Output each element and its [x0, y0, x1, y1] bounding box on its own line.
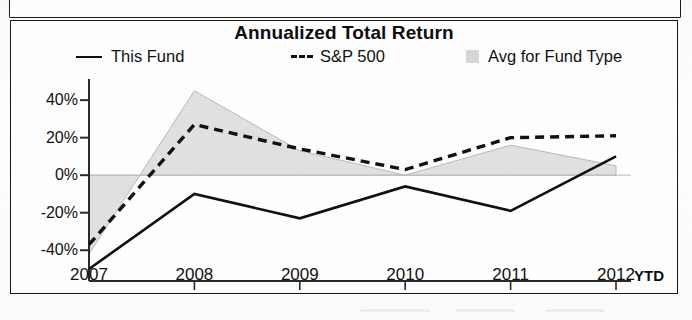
y-axis-tick-label: 0% — [18, 166, 78, 184]
x-axis-tick-label: 2008 — [175, 265, 213, 285]
y-axis-tick-label: -20% — [18, 204, 78, 222]
scan-smudge — [545, 309, 605, 312]
chart-panel: Annualized Total Return This Fund S&P 50… — [10, 20, 678, 294]
y-axis-tick-label: 20% — [18, 129, 78, 147]
x-axis-ytd-note: YTD — [634, 267, 664, 284]
x-axis-tick-label: 2010 — [386, 265, 424, 285]
y-axis-tick-label: 40% — [18, 91, 78, 109]
x-axis-tick-label: 2011 — [492, 265, 529, 285]
chart-canvas — [11, 21, 679, 295]
y-axis-tick-label: -40% — [18, 241, 78, 259]
x-axis-tick-label: 2009 — [281, 265, 319, 285]
scan-smudge — [360, 309, 430, 312]
plot-area: 40%20%0%-20%-40% YTD 2007200820092010201… — [11, 21, 679, 295]
x-axis-tick-label: 2007 — [70, 265, 108, 285]
scan-smudge — [455, 309, 515, 312]
x-axis-tick-labels: YTD 200720082009201020112012 — [11, 259, 679, 293]
x-axis-tick-label: 2012 — [597, 265, 635, 285]
adjacent-panel-partial — [9, 0, 681, 18]
y-axis-tick-labels: 40%20%0%-20%-40% — [16, 21, 78, 295]
scanned-page: Annualized Total Return This Fund S&P 50… — [0, 0, 692, 320]
